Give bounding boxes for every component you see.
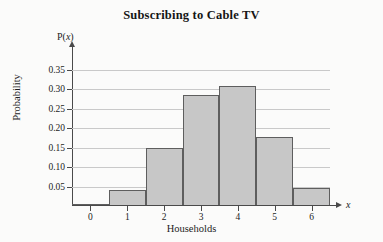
x-axis-tick-mark	[312, 206, 313, 211]
x-axis-arrow-icon	[336, 202, 342, 208]
x-axis-tick-label: 6	[302, 212, 322, 222]
y-axis-tick-label: 0.10	[48, 167, 65, 168]
x-axis-tick-mark	[275, 206, 276, 211]
y-axis-tick-label: 0.20	[48, 128, 65, 129]
x-axis-tick-label: 3	[191, 212, 211, 222]
x-axis-tick-mark	[164, 206, 165, 211]
bar-4	[219, 86, 256, 206]
x-axis-tick-label: 1	[117, 212, 137, 222]
x-axis-tick-label: 5	[265, 212, 285, 222]
y-axis-tick-label: 0.30	[48, 89, 65, 90]
y-axis-tick-label: 0.15	[48, 148, 65, 149]
chart-figure: Subscribing to Cable TV P(x) Probability…	[0, 0, 383, 242]
bar-6	[293, 188, 330, 206]
bar-3	[183, 95, 220, 206]
chart-title: Subscribing to Cable TV	[0, 8, 383, 23]
bars-layer	[72, 60, 337, 206]
x-axis-tick-mark	[90, 206, 91, 211]
bar-5	[256, 137, 293, 206]
x-axis-tick-mark	[127, 206, 128, 211]
y-axis-tick-label: 0.35	[48, 70, 65, 71]
x-axis-tick-label: 0	[80, 212, 100, 222]
y-axis-title: Probability	[11, 43, 22, 153]
x-axis-symbol-label: x	[346, 199, 350, 210]
y-axis-tick-label: 0.05	[48, 187, 65, 188]
x-axis-line	[72, 205, 337, 206]
y-axis-tick-label: 0.25	[48, 109, 65, 110]
bar-1	[109, 190, 146, 206]
bar-2	[146, 148, 183, 206]
x-axis-tick-mark	[201, 206, 202, 211]
x-axis-tick-label: 2	[154, 212, 174, 222]
x-axis-tick-mark	[238, 206, 239, 211]
x-axis-tick-label: 4	[228, 212, 248, 222]
x-axis-title: Households	[0, 223, 383, 234]
